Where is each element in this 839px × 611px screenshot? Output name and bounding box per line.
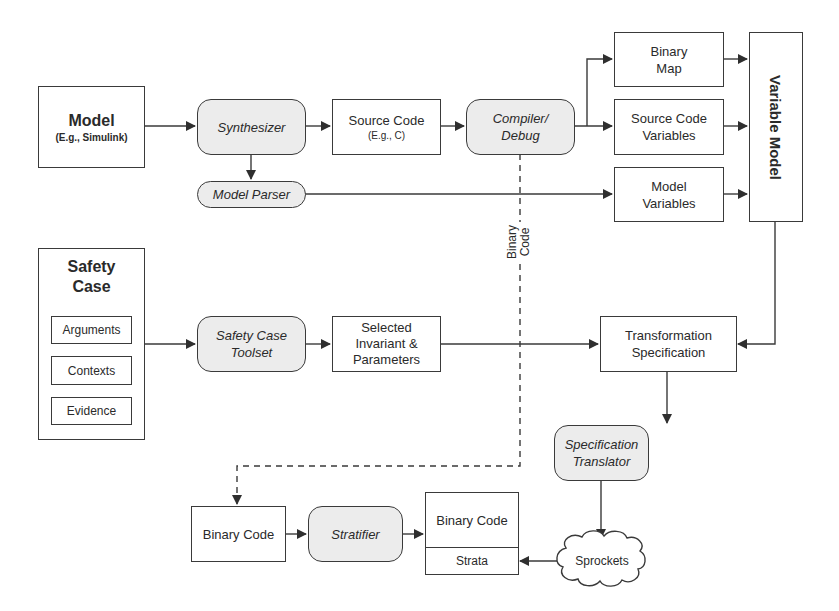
mv-line2: Variables — [642, 195, 695, 212]
binary-map-line1: Binary — [651, 43, 688, 60]
transform-line2: Specification — [632, 344, 706, 361]
binary-code-input-box: Binary Code — [191, 506, 286, 562]
selected-invariant-box: Selected Invariant & Parameters — [332, 316, 441, 372]
edge-label-line2: Code — [519, 222, 532, 262]
scv-line2: Variables — [642, 127, 695, 144]
binary-map-line2: Map — [656, 60, 681, 77]
selected-line2: Invariant & — [355, 336, 417, 352]
model-box: Model (E.g., Simulink) — [38, 86, 145, 168]
safety-case-line2: Case — [72, 277, 110, 297]
toolset-line1: Safety Case — [216, 327, 287, 344]
mv-line1: Model — [651, 178, 686, 195]
source-code-variables-box: Source Code Variables — [614, 99, 724, 155]
variable-model-label: Variable Model — [768, 74, 785, 179]
safety-case-contexts: Contexts — [51, 356, 132, 385]
transformation-spec-box: Transformation Specification — [600, 316, 737, 372]
compiler-line1: Compiler/ — [493, 110, 549, 127]
safety-case-toolset-process: Safety Case Toolset — [197, 316, 306, 372]
binary-code-output-top: Binary Code — [436, 493, 508, 547]
toolset-line2: Toolset — [231, 344, 272, 361]
binary-code-edge-label: Binary Code — [506, 222, 534, 262]
spec-translator-process: Specification Translator — [554, 425, 649, 481]
variable-model-box: Variable Model — [749, 32, 803, 222]
model-variables-box: Model Variables — [614, 167, 724, 222]
compiler-debug-process: Compiler/ Debug — [466, 99, 575, 155]
model-subtitle: (E.g., Simulink) — [55, 131, 127, 144]
translator-line1: Specification — [565, 436, 639, 453]
source-code-box: Source Code (E.g., C) — [332, 99, 441, 155]
translator-line2: Translator — [573, 453, 631, 470]
stratifier-process: Stratifier — [308, 506, 403, 562]
source-code-subtitle: (E.g., C) — [368, 129, 405, 142]
selected-line1: Selected — [361, 320, 412, 336]
binary-code-input-label: Binary Code — [203, 526, 275, 543]
safety-case-line1: Safety — [67, 257, 115, 277]
strata-section: Strata — [426, 547, 518, 574]
binary-code-output-box: Binary Code Strata — [425, 492, 519, 575]
model-parser-label: Model Parser — [213, 186, 290, 203]
compiler-line2: Debug — [501, 127, 539, 144]
safety-case-evidence: Evidence — [51, 397, 132, 425]
sprockets-label: Sprockets — [560, 548, 644, 574]
scv-line1: Source Code — [631, 110, 707, 127]
model-title: Model — [68, 111, 114, 131]
source-code-title: Source Code — [349, 112, 425, 129]
synthesizer-process: Synthesizer — [197, 99, 306, 155]
model-parser-process: Model Parser — [197, 181, 306, 208]
synthesizer-label: Synthesizer — [218, 119, 286, 136]
selected-line3: Parameters — [353, 352, 420, 368]
transform-line1: Transformation — [625, 327, 712, 344]
stratifier-label: Stratifier — [331, 526, 379, 543]
safety-case-arguments: Arguments — [51, 316, 132, 344]
binary-map-box: Binary Map — [614, 32, 724, 87]
